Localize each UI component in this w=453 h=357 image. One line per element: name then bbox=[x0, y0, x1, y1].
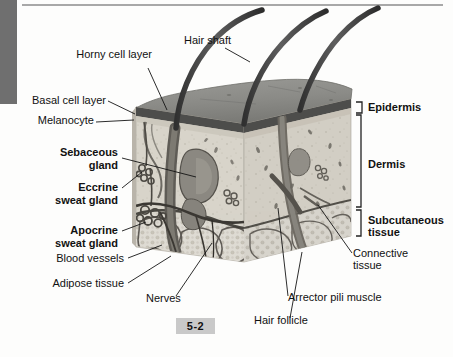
label-connective-tissue-line2: tissue bbox=[353, 259, 382, 272]
label-blood-vessels: Blood vessels bbox=[2, 252, 124, 265]
label-basal-cell-layer: Basal cell layer bbox=[2, 94, 106, 107]
bracket-epidermis bbox=[356, 102, 362, 113]
label-apocrine-sweat-gland-line2: sweat gland bbox=[2, 237, 118, 250]
leader-hair-shaft bbox=[225, 48, 250, 62]
label-melanocyte: Melanocyte bbox=[2, 114, 94, 127]
bracket-subcutaneous bbox=[356, 210, 361, 236]
label-sebaceous-gland-line1: Sebaceous bbox=[2, 146, 118, 159]
leader-hair-follicle bbox=[290, 252, 302, 318]
label-hair-follicle: Hair follicle bbox=[254, 314, 308, 327]
leader-melanocyte bbox=[96, 120, 134, 122]
label-eccrine-sweat-gland-line1: Eccrine bbox=[2, 181, 118, 194]
label-eccrine-sweat-gland-line2: sweat gland bbox=[2, 194, 118, 207]
label-nerves: Nerves bbox=[146, 292, 181, 305]
leader-adipose-tissue bbox=[128, 256, 171, 283]
label-apocrine-sweat-gland-line1: Apocrine bbox=[2, 224, 118, 237]
figure-page: Horny cell layer Basal cell layer Melano… bbox=[0, 0, 453, 357]
figure-number-badge: 5-2 bbox=[176, 318, 215, 334]
label-hair-shaft: Hair shaft bbox=[184, 34, 231, 47]
label-horny-cell-layer: Horny cell layer bbox=[6, 48, 152, 61]
label-dermis: Dermis bbox=[368, 158, 405, 171]
bracket-dermis bbox=[356, 115, 361, 207]
leader-basal-cell-layer bbox=[108, 101, 135, 114]
label-arrector-pili-muscle: Arrector pili muscle bbox=[288, 291, 382, 304]
label-adipose-tissue: Adipose tissue bbox=[2, 277, 124, 290]
label-epidermis: Epidermis bbox=[368, 101, 421, 114]
layer-brackets bbox=[356, 102, 362, 236]
label-connective-tissue-line1: Connective bbox=[353, 247, 408, 260]
label-subcutaneous-tissue-line2: tissue bbox=[368, 226, 400, 239]
label-sebaceous-gland-line2: gland bbox=[2, 159, 118, 172]
label-subcutaneous-tissue-line1: Subcutaneous bbox=[368, 214, 444, 227]
